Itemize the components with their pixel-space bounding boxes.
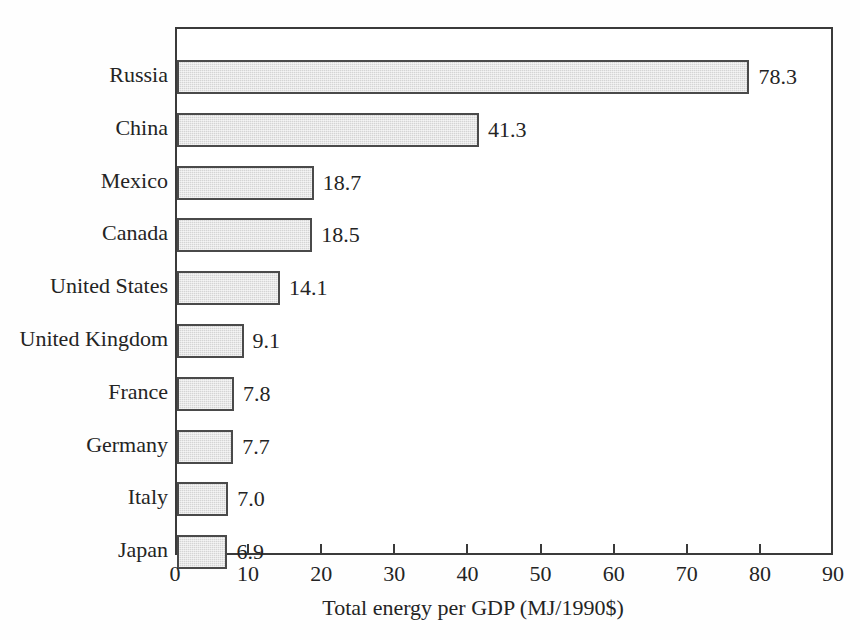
x-tick-label: 80 [749,563,771,585]
x-tick-label: 10 [237,563,259,585]
category-label: Canada [102,222,168,244]
x-tick-mark [759,544,761,555]
category-label: United Kingdom [20,328,169,350]
bar [177,482,228,516]
plot-frame: 78.341.318.718.514.19.17.87.77.06.9 [175,27,833,555]
x-tick-label: 50 [530,563,552,585]
chart-figure: 78.341.318.718.514.19.17.87.77.06.9 Russ… [0,0,860,640]
x-tick-label: 40 [456,563,478,585]
bar [177,60,749,94]
bar-value-label: 6.9 [236,541,264,563]
bar-value-label: 41.3 [488,119,527,141]
x-axis-title-text: Total energy per GDP (MJ/1990$) [322,595,624,620]
category-label: Japan [118,539,168,561]
bar [177,271,280,305]
category-label: Mexico [101,170,168,192]
x-axis-title: Total energy per GDP (MJ/1990$) [0,597,860,619]
bar [177,218,312,252]
x-tick-label: 90 [822,563,844,585]
category-label: Germany [86,434,168,456]
x-tick-label: 20 [310,563,332,585]
category-label: Italy [128,486,168,508]
x-tick-label: 30 [383,563,405,585]
bar [177,377,234,411]
bar-value-label: 14.1 [289,277,328,299]
bar [177,166,314,200]
bar-value-label: 18.7 [323,172,362,194]
bar-value-label: 7.8 [243,383,271,405]
x-tick-label: 0 [170,563,181,585]
x-tick-mark [613,544,615,555]
bar-value-label: 7.7 [242,436,270,458]
bar-value-label: 78.3 [758,66,797,88]
category-label: France [108,381,168,403]
x-tick-mark [247,544,249,555]
bar [177,113,479,147]
x-tick-mark [540,544,542,555]
bar-value-label: 7.0 [237,488,265,510]
bar [177,430,233,464]
x-tick-mark [393,544,395,555]
x-tick-mark [466,544,468,555]
category-label: United States [50,275,168,297]
bar-value-label: 18.5 [321,224,360,246]
category-label: Russia [109,64,168,86]
x-tick-mark [686,544,688,555]
bar [177,324,244,358]
x-tick-mark [320,544,322,555]
category-label: China [115,117,168,139]
x-tick-label: 70 [676,563,698,585]
x-tick-label: 60 [603,563,625,585]
bar-value-label: 9.1 [253,330,281,352]
bar [177,535,227,569]
